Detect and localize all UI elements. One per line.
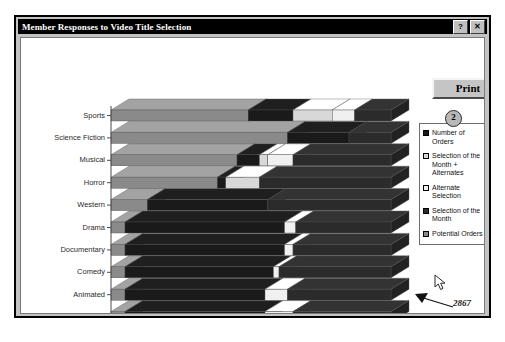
mouse-cursor-icon	[434, 274, 447, 291]
legend-swatch-dark	[423, 208, 429, 214]
legend-swatch-light	[423, 153, 429, 159]
bar-group	[111, 278, 409, 300]
bar-group	[111, 256, 409, 278]
annotation-marker-2: 2	[445, 110, 462, 127]
callout-arrow-icon	[401, 290, 457, 312]
window-client-area: SportsScience FictionMusicalHorrorWester…	[20, 37, 485, 314]
y-axis-tick-label: Animated	[21, 290, 105, 299]
chart-legend: Number of OrdersSelection of the Month +…	[419, 123, 485, 245]
legend-swatch-mid-gray	[423, 231, 429, 237]
legend-label: Selection of the Month	[432, 207, 483, 224]
bar-group	[111, 99, 409, 121]
y-axis-tick-label: Documentary	[21, 245, 105, 254]
bar-group	[111, 189, 409, 211]
legend-item: Alternate Selection	[423, 184, 483, 201]
legend-label: Number of Orders	[432, 129, 483, 146]
y-axis-tick-label: Western	[21, 200, 105, 209]
screenshot-root: Member Responses to Video Title Selectio…	[0, 0, 505, 342]
bar-group	[111, 121, 409, 143]
legend-swatch-solid-dark	[423, 130, 429, 136]
legend-swatch-lightest	[423, 185, 429, 191]
window-title: Member Responses to Video Title Selectio…	[18, 22, 191, 32]
y-axis-tick-label: Drama	[21, 223, 105, 232]
bar-group	[111, 211, 409, 233]
y-axis-tick-label: Science Fiction	[21, 133, 105, 142]
legend-item: Potential Orders	[423, 230, 483, 239]
chart-plot-area: SportsScience FictionMusicalHorrorWester…	[21, 38, 485, 314]
legend-label: Potential Orders	[432, 230, 483, 239]
legend-item: Selection of the Month	[423, 207, 483, 224]
legend-label: Alternate Selection	[432, 184, 483, 201]
legend-item: Number of Orders	[423, 129, 483, 146]
close-button[interactable]: ✕	[470, 20, 485, 34]
print-button[interactable]: Print	[432, 78, 485, 99]
window-titlebar: Member Responses to Video Title Selectio…	[18, 19, 487, 34]
y-axis-tick-label: Comedy	[21, 267, 105, 276]
y-axis-tick-label: Horror	[21, 178, 105, 187]
bar-group	[111, 301, 409, 314]
bar-group	[111, 233, 409, 255]
chart-window: Member Responses to Video Title Selectio…	[14, 15, 491, 318]
y-axis-tick-label: Musical	[21, 155, 105, 164]
window-controls: ? ✕	[453, 20, 485, 34]
legend-item: Selection of the Month + Alternates	[423, 152, 483, 178]
help-button[interactable]: ?	[453, 20, 468, 34]
y-axis-tick-label: Sports	[21, 111, 105, 120]
bar-group	[111, 144, 409, 166]
y-axis-tick-label: Action Adventure	[21, 312, 105, 314]
legend-label: Selection of the Month + Alternates	[432, 152, 483, 178]
bar-group	[111, 166, 409, 188]
